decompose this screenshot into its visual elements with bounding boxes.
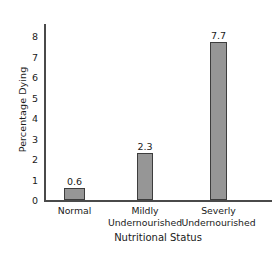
y-tick-label: 6: [32, 72, 38, 83]
x-axis-title: Nutritional Status: [44, 232, 272, 243]
bar-normal: 0.6: [64, 188, 85, 200]
bar-mildly-undernourished: 2.3: [137, 153, 153, 200]
x-tick-label-normal: Normal: [58, 205, 92, 217]
y-tick-label: 5: [32, 92, 38, 103]
x-tick-label-mildly-undernourished: Mildly Undernourished: [108, 205, 182, 228]
x-tick-line-2: Undernourished: [181, 217, 255, 229]
bar-value-label: 0.6: [67, 176, 82, 187]
y-tick-label: 2: [32, 154, 38, 165]
x-tick-line-1: Normal: [58, 205, 92, 216]
x-axis-line: [44, 200, 272, 202]
bar-chart: Percentage Dying 0 1 2 3 4 5 6 7 8 0.6 2…: [0, 0, 278, 255]
bar-value-label: 7.7: [211, 30, 226, 41]
y-tick-label: 1: [32, 174, 38, 185]
y-axis-line: [44, 24, 46, 200]
y-axis-title: Percentage Dying: [17, 45, 28, 175]
y-tick-label: 3: [32, 133, 38, 144]
x-tick-line-1: Mildly: [131, 205, 158, 216]
y-tick-label: 8: [32, 31, 38, 42]
y-tick-label: 7: [32, 51, 38, 62]
x-tick-label-severly-undernourished: Severly Undernourished: [181, 205, 255, 228]
x-tick-line-2: Undernourished: [108, 217, 182, 229]
x-tick-line-1: Severly: [201, 205, 236, 216]
bar-severly-undernourished: 7.7: [210, 42, 227, 200]
plot-area: 0 1 2 3 4 5 6 7 8 0.6 2.3 7.7 Normal Mil…: [44, 24, 272, 200]
y-tick-label: 0: [32, 195, 38, 206]
bar-value-label: 2.3: [137, 141, 152, 152]
y-tick-label: 4: [32, 113, 38, 124]
